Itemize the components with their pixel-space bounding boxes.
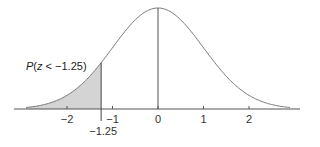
x-tick-label: 2 <box>246 113 252 125</box>
x-tick-label: −2 <box>61 113 74 125</box>
normal-distribution-chart: −2−1012 −1.25 P(z < −1.25) <box>0 0 320 147</box>
z-marker-label: −1.25 <box>89 125 117 137</box>
x-tick-label: 1 <box>200 113 206 125</box>
probability-annotation: P(z < −1.25) <box>26 60 87 72</box>
x-tick-label: −1 <box>106 113 119 125</box>
x-tick-label: 0 <box>155 113 161 125</box>
